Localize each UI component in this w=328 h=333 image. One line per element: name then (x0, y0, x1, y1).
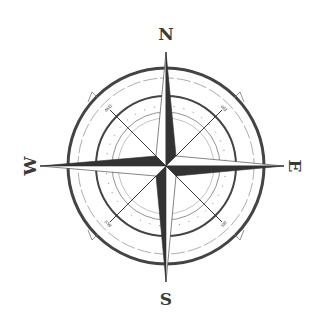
cardinal-points (40, 52, 284, 282)
label-sw: sw (103, 218, 114, 229)
label-n: N (158, 24, 174, 44)
label-nw: nw (102, 103, 114, 115)
compass-rose: N S E W nw ne se sw (0, 0, 328, 333)
label-e: E (285, 160, 305, 173)
label-w: W (20, 156, 40, 177)
label-s: S (160, 289, 172, 309)
